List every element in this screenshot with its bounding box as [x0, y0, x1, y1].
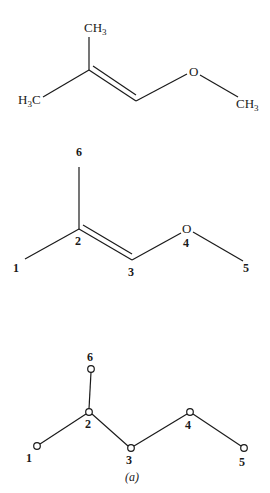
molecule-diagram: CH3 H3C O CH3 O 6 2 1 3 4 5 [0, 0, 270, 493]
bond-2-3-inner [83, 225, 132, 254]
bond-1-2 [25, 229, 79, 259]
graph-label-6: 6 [87, 350, 93, 364]
graph-node-6 [88, 366, 95, 373]
graph-label-2: 2 [85, 417, 91, 431]
figure-caption: (a) [125, 470, 139, 484]
structure-graph: 6 2 1 3 4 5 (a) [26, 350, 247, 484]
label-num-4: 4 [183, 236, 189, 250]
label-num-6: 6 [76, 145, 82, 159]
edge-4-5 [193, 414, 241, 446]
bond-3-4 [132, 233, 181, 260]
bond-c3-o [136, 74, 187, 101]
bond-c2-c3-outer [89, 70, 136, 101]
label-num-3: 3 [128, 265, 134, 279]
graph-label-3: 3 [126, 453, 132, 467]
graph-node-1 [34, 443, 41, 450]
label-oxygen-4: O [182, 221, 191, 236]
label-ch3-top: CH3 [84, 20, 107, 37]
bond-2-3-outer [79, 229, 132, 260]
label-oxygen: O [189, 64, 198, 79]
label-num-1: 1 [13, 261, 19, 275]
graph-node-2 [86, 409, 93, 416]
bond-h3c-c2 [43, 70, 89, 97]
edge-3-4 [134, 414, 187, 446]
graph-label-1: 1 [26, 451, 32, 465]
label-ch3-right: CH3 [236, 96, 259, 113]
graph-label-5: 5 [239, 455, 245, 469]
bond-o-ch3 [200, 75, 238, 97]
edge-2-6 [89, 372, 91, 409]
label-num-5: 5 [243, 261, 249, 275]
structure-formula: CH3 H3C O CH3 [18, 20, 259, 113]
graph-node-5 [241, 445, 248, 452]
edge-1-2 [40, 414, 86, 444]
graph-node-3 [128, 445, 135, 452]
structure-numbered: O 6 2 1 3 4 5 [13, 145, 249, 279]
graph-label-4: 4 [185, 418, 191, 432]
bond-c2-c3-inner [93, 66, 136, 95]
bond-4-5 [193, 232, 243, 261]
label-h3c-left: H3C [18, 92, 41, 109]
edge-2-3 [92, 414, 128, 446]
label-num-2: 2 [75, 234, 81, 248]
graph-node-4 [187, 409, 194, 416]
